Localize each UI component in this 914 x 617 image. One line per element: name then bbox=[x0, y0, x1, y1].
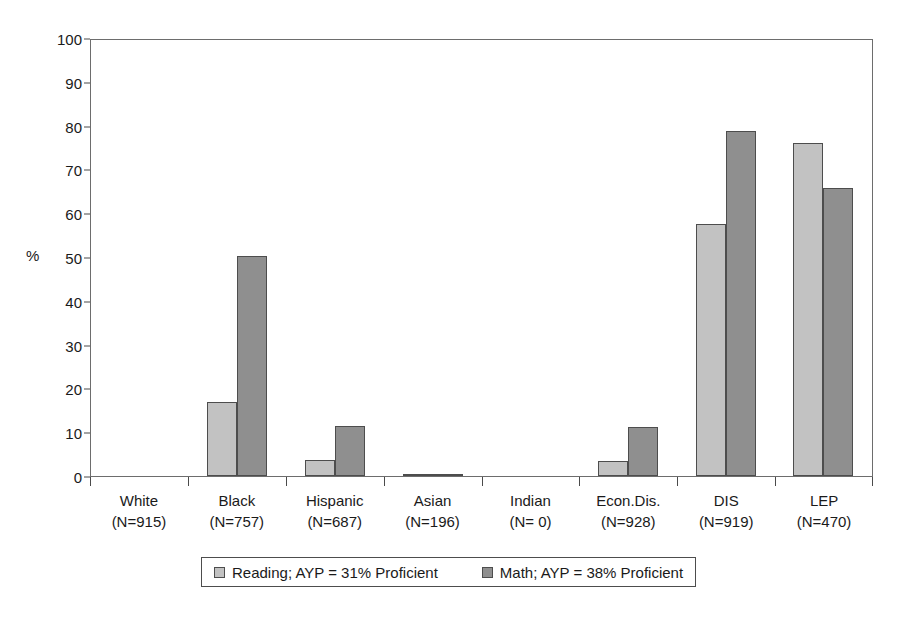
y-tick-label: 60 bbox=[65, 207, 82, 222]
x-label-category: DIS bbox=[677, 490, 775, 511]
x-label-category: Black bbox=[188, 490, 286, 511]
legend-entry: Reading; AYP = 31% Proficient bbox=[214, 565, 438, 580]
x-axis-label: Black(N=757) bbox=[188, 490, 286, 532]
x-label-category: Hispanic bbox=[286, 490, 384, 511]
x-axis-label: Indian(N= 0) bbox=[482, 490, 580, 532]
x-axis-label: Hispanic(N=687) bbox=[286, 490, 384, 532]
x-axis-labels: White(N=915)Black(N=757)Hispanic(N=687)A… bbox=[90, 490, 873, 532]
x-axis-label: Econ.Dis.(N=928) bbox=[579, 490, 677, 532]
y-tick-label: 30 bbox=[65, 338, 82, 353]
legend-entry: Math; AYP = 38% Proficient bbox=[482, 565, 683, 580]
bar-group bbox=[579, 40, 677, 476]
x-label-count: (N=470) bbox=[775, 511, 873, 532]
x-axis-label: Asian(N=196) bbox=[384, 490, 482, 532]
x-label-category: LEP bbox=[775, 490, 873, 511]
x-tick-mark bbox=[286, 477, 287, 486]
bar-reading bbox=[207, 402, 237, 476]
y-tick-label: 70 bbox=[65, 163, 82, 178]
bar-reading bbox=[696, 224, 726, 476]
x-axis-ticks bbox=[90, 477, 873, 486]
y-tick-label: 100 bbox=[57, 32, 82, 47]
x-tick-mark bbox=[384, 477, 385, 486]
x-label-category: Indian bbox=[482, 490, 580, 511]
x-label-count: (N=919) bbox=[677, 511, 775, 532]
bar-group bbox=[774, 40, 872, 476]
bar-reading bbox=[793, 143, 823, 476]
bar-group bbox=[384, 40, 482, 476]
x-label-count: (N=757) bbox=[188, 511, 286, 532]
bar-reading bbox=[598, 461, 628, 476]
bar-chart-figure: % 0102030405060708090100 White(N=915)Bla… bbox=[0, 0, 914, 617]
y-tick-label: 90 bbox=[65, 75, 82, 90]
bar-group bbox=[482, 40, 580, 476]
x-axis-label: DIS(N=919) bbox=[677, 490, 775, 532]
x-label-count: (N= 0) bbox=[482, 511, 580, 532]
bar-group bbox=[677, 40, 775, 476]
x-tick-mark bbox=[872, 477, 873, 486]
x-label-count: (N=687) bbox=[286, 511, 384, 532]
bar-math bbox=[726, 131, 756, 476]
legend-swatch-math bbox=[482, 567, 493, 578]
x-tick-mark bbox=[482, 477, 483, 486]
bars-container bbox=[91, 40, 872, 476]
bar-math bbox=[335, 426, 365, 476]
x-tick-mark bbox=[188, 477, 189, 486]
bar-group bbox=[286, 40, 384, 476]
x-label-category: Econ.Dis. bbox=[579, 490, 677, 511]
y-tick-label: 0 bbox=[74, 470, 82, 485]
x-tick-mark bbox=[90, 477, 91, 486]
y-tick-label: 50 bbox=[65, 251, 82, 266]
x-label-count: (N=196) bbox=[384, 511, 482, 532]
x-label-category: Asian bbox=[384, 490, 482, 511]
y-tick-label: 20 bbox=[65, 382, 82, 397]
bar-math bbox=[628, 427, 658, 476]
bar-math bbox=[237, 256, 267, 476]
bar-group bbox=[189, 40, 287, 476]
bar-math bbox=[433, 474, 463, 476]
y-axis-ticks: 0102030405060708090100 bbox=[40, 39, 90, 477]
x-tick-mark bbox=[579, 477, 580, 486]
legend-label: Math; AYP = 38% Proficient bbox=[500, 565, 683, 580]
x-tick-mark bbox=[775, 477, 776, 486]
x-label-count: (N=928) bbox=[579, 511, 677, 532]
y-tick-label: 10 bbox=[65, 426, 82, 441]
legend-label: Reading; AYP = 31% Proficient bbox=[232, 565, 438, 580]
y-axis-title: % bbox=[26, 248, 39, 263]
x-label-count: (N=915) bbox=[90, 511, 188, 532]
bar-group bbox=[91, 40, 189, 476]
chart-legend: Reading; AYP = 31% ProficientMath; AYP =… bbox=[201, 557, 696, 587]
y-tick-label: 40 bbox=[65, 294, 82, 309]
bar-math bbox=[823, 188, 853, 476]
plot-area bbox=[90, 39, 873, 477]
x-tick-mark bbox=[677, 477, 678, 486]
legend-swatch-reading bbox=[214, 567, 225, 578]
x-axis-label: White(N=915) bbox=[90, 490, 188, 532]
bar-reading bbox=[305, 460, 335, 476]
x-axis-label: LEP(N=470) bbox=[775, 490, 873, 532]
x-label-category: White bbox=[90, 490, 188, 511]
y-tick-label: 80 bbox=[65, 119, 82, 134]
bar-reading bbox=[403, 474, 433, 476]
